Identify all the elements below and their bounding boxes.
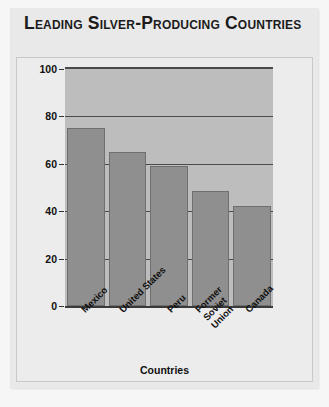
y-tick-40: 40	[45, 205, 65, 217]
bar-mexico[interactable]	[67, 128, 105, 306]
x-axis-title: Countries	[17, 364, 312, 376]
chart-panel: Leading Silver-Producing Countries Milli…	[10, 8, 318, 388]
bar-slot	[192, 69, 230, 306]
bar-peru[interactable]	[150, 166, 188, 306]
plot-area: 100 80 60 40 20 0	[65, 67, 273, 306]
y-tick-80: 80	[45, 110, 65, 122]
bar-slot	[67, 69, 105, 306]
y-tick-100: 100	[39, 63, 65, 75]
y-tick-60: 60	[45, 158, 65, 170]
y-tick-20: 20	[45, 253, 65, 265]
bar-slot	[233, 69, 271, 306]
chart-frame: Millions of Troy Ounces 100 80 60 40 20 …	[16, 57, 313, 382]
page-title: Leading Silver-Producing Countries	[24, 14, 304, 33]
y-tick-0: 0	[51, 300, 65, 312]
bar-slot	[109, 69, 147, 306]
bar-group	[65, 69, 273, 306]
page-root: Leading Silver-Producing Countries Milli…	[0, 0, 329, 407]
